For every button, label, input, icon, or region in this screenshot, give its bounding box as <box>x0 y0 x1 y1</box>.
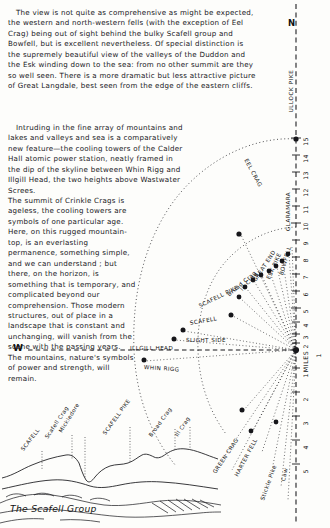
scale-number-4: 4 <box>302 323 309 327</box>
page-root: The view is not quite as comprehensive a… <box>0 0 330 528</box>
scale-number-8: 8 <box>302 258 309 262</box>
scale-number-6: 6 <box>302 292 309 296</box>
scale-number-5: 5 <box>302 309 309 313</box>
scale-number-12: 12 <box>302 188 309 196</box>
scale-number-15: 15 <box>302 137 309 145</box>
scale-number-1-south: 1 <box>302 373 309 377</box>
label-slight-side: SLIGHT SIDE <box>186 337 226 343</box>
scale-unit-label: MILES <box>302 351 309 372</box>
scale-number-3: 3 <box>302 335 309 339</box>
scale-number-3-south: 3 <box>302 421 309 425</box>
label-glaramara: GLARAMARA <box>285 192 291 231</box>
panorama-caption: The Scafell Group <box>10 503 97 514</box>
scale-number-13: 13 <box>302 171 309 179</box>
scale-number-4-south: 4 <box>302 445 309 449</box>
scale-number-11: 11 <box>302 205 309 213</box>
scale-number-2-south: 2 <box>302 397 309 401</box>
scale-number-2: 2 <box>302 344 309 348</box>
scale-number-7: 7 <box>302 275 309 279</box>
north-marker: N <box>288 18 295 28</box>
lower-ridge-path <box>2 480 218 489</box>
label-ullock-pike: ULLOCK PIKE <box>288 70 294 113</box>
scale-number-5-south: 5 <box>302 469 309 473</box>
scale-number-10: 10 <box>302 222 309 230</box>
label-illgill-head: ILLGILL HEAD <box>130 345 173 351</box>
scale-number-14: 14 <box>302 154 309 162</box>
scale-number-1-north: 1 <box>315 353 322 357</box>
skyline-path <box>2 449 218 482</box>
scale-number-9: 9 <box>302 241 309 245</box>
west-marker: W <box>13 343 23 353</box>
